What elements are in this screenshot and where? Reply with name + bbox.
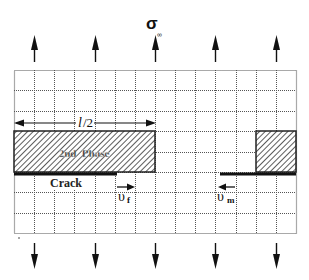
load-arrow-up xyxy=(152,35,159,62)
speck-mark xyxy=(18,237,20,239)
load-arrow-down xyxy=(31,243,38,269)
dimension-label-l: l xyxy=(78,115,82,130)
dimension-label-half: /2 xyxy=(83,115,93,130)
load-arrow-up xyxy=(31,35,38,62)
stress-subscript: ∞ xyxy=(157,31,162,38)
load-arrow-down xyxy=(152,243,159,269)
dimension-arrowhead-left xyxy=(14,120,24,127)
load-arrow-down xyxy=(92,243,99,269)
dimension-arrowhead-right xyxy=(146,120,156,127)
crack-diagram: σ ∞ 2nd Phase l /2 Crack υ f υ m xyxy=(0,0,309,280)
crack-label: Crack xyxy=(50,176,82,190)
load-arrow-down xyxy=(273,243,280,269)
matrix-velocity-symbol: υ xyxy=(217,189,224,204)
load-arrow-down xyxy=(212,243,219,269)
fiber-velocity-arrowhead xyxy=(127,184,135,191)
fiber-velocity: υ f xyxy=(117,184,135,206)
matrix-velocity: υ m xyxy=(217,184,235,206)
load-arrow-up xyxy=(273,35,280,62)
bottom-load-arrows xyxy=(31,243,280,269)
load-arrow-up xyxy=(212,35,219,62)
fiber-velocity-symbol: υ xyxy=(118,189,125,204)
second-phase-label: 2nd Phase xyxy=(59,147,110,159)
second-phase-right xyxy=(256,131,296,172)
fiber-velocity-subscript: f xyxy=(127,195,131,205)
top-load-arrows xyxy=(31,35,280,62)
dimension-arrow: l /2 xyxy=(14,113,156,130)
matrix-velocity-subscript: m xyxy=(227,195,235,205)
load-arrow-up xyxy=(92,35,99,62)
